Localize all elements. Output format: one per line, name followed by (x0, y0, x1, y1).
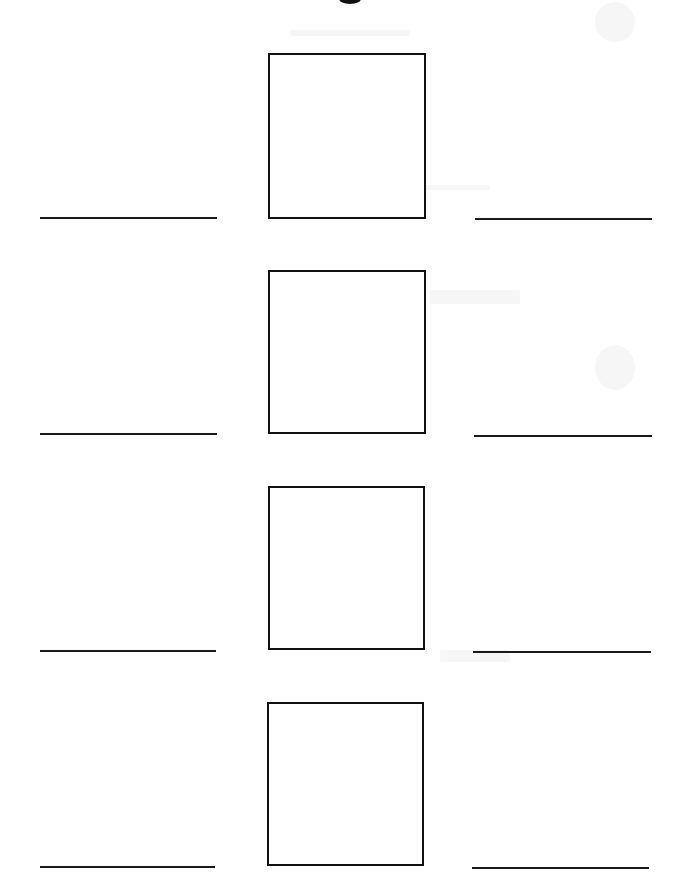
answer-line-right-4[interactable]: Answer line 4 (right) (472, 867, 649, 869)
answer-line-right-2[interactable]: Answer line 2 (right) (474, 435, 652, 437)
picture-box-4: Picture box 4 (267, 702, 424, 866)
answer-line-right-1[interactable]: Answer line 1 (right) (475, 218, 652, 220)
picture-box-3: Picture box 3 (268, 486, 425, 650)
heading-fragment (339, 0, 361, 4)
bleed-through-mark (595, 2, 635, 42)
answer-line-left-4[interactable]: Answer line 4 (left) (40, 866, 215, 868)
worksheet-page: Answer line 1 (left) Picture box 1 Answe… (0, 0, 687, 892)
bleed-through-mark (595, 345, 635, 390)
bleed-through-mark (290, 30, 410, 36)
picture-box-2: Picture box 2 (268, 270, 426, 434)
picture-box-1: Picture box 1 (268, 53, 426, 219)
answer-line-left-3[interactable]: Answer line 3 (left) (40, 650, 216, 652)
answer-line-left-2[interactable]: Answer line 2 (left) (40, 433, 217, 435)
bleed-through-mark (430, 290, 520, 304)
answer-line-right-3[interactable]: Answer line 3 (right) (473, 651, 651, 653)
answer-line-left-1[interactable]: Answer line 1 (left) (40, 217, 217, 219)
